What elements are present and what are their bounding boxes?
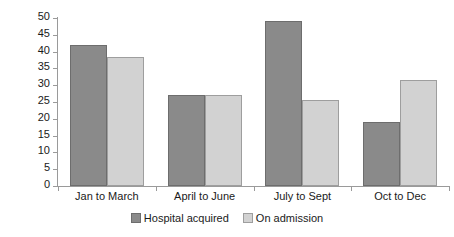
bar-group (58, 18, 156, 186)
bar[interactable] (205, 95, 242, 186)
legend-item[interactable]: On admission (243, 212, 323, 224)
bar[interactable] (168, 95, 205, 186)
y-axis-tick-label: 25 (38, 94, 50, 106)
x-axis-category-labels: Jan to MarchApril to JuneJuly to SeptOct… (58, 190, 449, 206)
y-axis-tick-label: 0 (44, 178, 50, 190)
legend-label: Hospital acquired (144, 212, 229, 224)
bar[interactable] (363, 122, 400, 186)
bar[interactable] (107, 57, 144, 186)
legend-swatch-icon (131, 213, 141, 223)
y-axis-tick-label: 5 (44, 161, 50, 173)
bar[interactable] (400, 80, 437, 186)
bar[interactable] (265, 21, 302, 186)
bar-group (254, 18, 352, 186)
legend-item[interactable]: Hospital acquired (131, 212, 229, 224)
y-axis-tick-label: 40 (38, 44, 50, 56)
y-axis-tick-label: 50 (38, 10, 50, 22)
y-axis-tick-label: 30 (38, 77, 50, 89)
y-axis-tick-label: 10 (38, 144, 50, 156)
bar[interactable] (302, 100, 339, 186)
bar-group (351, 18, 449, 186)
x-axis-category-label: Oct to Dec (351, 190, 449, 206)
y-axis-tick-label: 35 (38, 60, 50, 72)
legend-swatch-icon (243, 213, 253, 223)
bar-chart: Number of patients 05101520253035404550 … (0, 0, 454, 237)
bar-groups (58, 18, 449, 186)
bar-group (156, 18, 254, 186)
y-axis-tick-label: 15 (38, 128, 50, 140)
legend-label: On admission (256, 212, 323, 224)
x-axis-category-label: July to Sept (254, 190, 352, 206)
bar[interactable] (70, 45, 107, 186)
y-axis-tick-label: 20 (38, 111, 50, 123)
x-axis-tick-mark (449, 186, 450, 191)
x-axis-category-label: April to June (156, 190, 254, 206)
chart-legend: Hospital acquiredOn admission (0, 210, 454, 226)
y-axis-tick-label: 45 (38, 27, 50, 39)
x-axis-category-label: Jan to March (58, 190, 156, 206)
